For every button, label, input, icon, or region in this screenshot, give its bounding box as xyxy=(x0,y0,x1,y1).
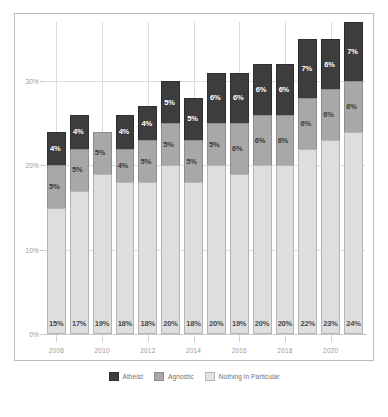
x-axis-label-2008: 2008 xyxy=(49,347,64,354)
x-axis-label-2014: 2014 xyxy=(186,347,201,354)
data-label: 18% xyxy=(118,320,132,328)
segment-nothing[interactable]: 19% xyxy=(93,174,112,334)
nothing-color-icon xyxy=(205,372,215,381)
data-label: 6% xyxy=(278,137,288,145)
chart-root: 0%10%20%30% 15%5%4%17%5%4%19%5%18%4%4%18… xyxy=(0,0,388,417)
legend-label: Nothing in Particular xyxy=(219,373,280,380)
segment-nothing[interactable]: 20% xyxy=(161,165,180,334)
data-label: 5% xyxy=(187,116,197,124)
segment-nothing[interactable]: 20% xyxy=(253,165,272,334)
x-axis-label-2020: 2020 xyxy=(323,347,338,354)
segment-agnostic[interactable]: 6% xyxy=(230,123,249,174)
segment-agnostic[interactable]: 5% xyxy=(138,140,157,182)
data-label: 6% xyxy=(255,137,265,145)
segment-nothing[interactable]: 18% xyxy=(184,182,203,334)
segment-atheist[interactable]: 6% xyxy=(230,73,249,124)
bar-2012[interactable]: 18%5%4% xyxy=(138,106,157,334)
data-label: 6% xyxy=(233,95,243,103)
data-label: 6% xyxy=(232,145,242,153)
bar-2016[interactable]: 19%6%6% xyxy=(230,73,249,334)
segment-agnostic[interactable]: 6% xyxy=(321,89,340,140)
data-label: 6% xyxy=(300,120,310,128)
bar-2008[interactable]: 15%5%4% xyxy=(47,132,66,334)
legend-item-agnostic[interactable]: Agnostic xyxy=(154,372,194,381)
bar-2018[interactable]: 20%6%6% xyxy=(276,64,295,334)
bar-2020[interactable]: 23%6%6% xyxy=(321,39,340,334)
segment-agnostic[interactable]: 5% xyxy=(161,123,180,165)
data-label: 5% xyxy=(49,183,59,191)
segment-atheist[interactable]: 5% xyxy=(184,98,203,140)
data-label: 17% xyxy=(72,320,86,328)
bar-2014[interactable]: 18%5%5% xyxy=(184,98,203,334)
bar-2009[interactable]: 17%5%4% xyxy=(70,115,89,334)
data-label: 4% xyxy=(50,145,60,153)
segment-agnostic[interactable]: 5% xyxy=(207,123,226,165)
legend-label: Atheist xyxy=(123,373,144,380)
y-axis-label: 30% xyxy=(25,78,39,85)
legend-item-atheist[interactable]: Atheist xyxy=(109,372,144,381)
segment-nothing[interactable]: 20% xyxy=(276,165,295,334)
segment-agnostic[interactable]: 5% xyxy=(93,132,112,174)
data-label: 5% xyxy=(164,99,174,107)
data-label: 6% xyxy=(210,95,220,103)
segment-atheist[interactable]: 6% xyxy=(207,73,226,124)
bar-2013[interactable]: 20%5%5% xyxy=(161,81,180,334)
segment-agnostic[interactable]: 5% xyxy=(184,140,203,182)
data-label: 18% xyxy=(186,320,200,328)
y-axis-label: 0% xyxy=(29,331,39,338)
data-label: 4% xyxy=(118,162,128,170)
segment-atheist[interactable]: 7% xyxy=(298,39,317,98)
bar-2021[interactable]: 24%6%7% xyxy=(344,22,363,334)
segment-atheist[interactable]: 4% xyxy=(47,132,66,166)
data-label: 19% xyxy=(232,320,246,328)
segment-atheist[interactable]: 6% xyxy=(321,39,340,90)
plot-area: 0%10%20%30% 15%5%4%17%5%4%19%5%18%4%4%18… xyxy=(45,22,365,334)
data-label: 5% xyxy=(140,158,150,166)
segment-agnostic[interactable]: 4% xyxy=(116,149,135,183)
segment-atheist[interactable]: 4% xyxy=(116,115,135,149)
bar-2019[interactable]: 22%6%7% xyxy=(298,39,317,334)
segment-atheist[interactable]: 7% xyxy=(344,22,363,81)
bar-series-group: 15%5%4%17%5%4%19%5%18%4%4%18%5%4%20%5%5%… xyxy=(45,22,365,334)
data-label: 4% xyxy=(119,128,129,136)
x-tick-mark xyxy=(56,334,57,342)
segment-nothing[interactable]: 18% xyxy=(116,182,135,334)
data-label: 20% xyxy=(163,320,177,328)
legend-item-nothing-in-particular[interactable]: Nothing in Particular xyxy=(205,372,280,381)
segment-nothing[interactable]: 15% xyxy=(47,208,66,334)
segment-agnostic[interactable]: 6% xyxy=(298,98,317,149)
data-label: 5% xyxy=(72,166,82,174)
segment-agnostic[interactable]: 6% xyxy=(344,81,363,132)
segment-nothing[interactable]: 24% xyxy=(344,132,363,334)
segment-nothing[interactable]: 19% xyxy=(230,174,249,334)
segment-agnostic[interactable]: 5% xyxy=(47,165,66,207)
segment-nothing[interactable]: 17% xyxy=(70,191,89,334)
data-label: 6% xyxy=(279,86,289,94)
segment-nothing[interactable]: 20% xyxy=(207,165,226,334)
data-label: 24% xyxy=(346,320,360,328)
data-label: 5% xyxy=(95,149,105,157)
segment-agnostic[interactable]: 6% xyxy=(276,115,295,166)
segment-atheist[interactable]: 4% xyxy=(138,106,157,140)
bar-2017[interactable]: 20%6%6% xyxy=(253,64,272,334)
bar-2011[interactable]: 18%4%4% xyxy=(116,115,135,334)
data-label: 23% xyxy=(323,320,337,328)
x-tick-mark xyxy=(285,334,286,342)
data-label: 20% xyxy=(255,320,269,328)
x-axis xyxy=(45,334,367,335)
segment-atheist[interactable]: 6% xyxy=(253,64,272,115)
segment-atheist[interactable]: 6% xyxy=(276,64,295,115)
segment-nothing[interactable]: 23% xyxy=(321,140,340,334)
segment-atheist[interactable]: 4% xyxy=(70,115,89,149)
segment-nothing[interactable]: 22% xyxy=(298,149,317,335)
bar-2010[interactable]: 19%5% xyxy=(93,132,112,334)
data-label: 5% xyxy=(186,158,196,166)
x-axis-label-2016: 2016 xyxy=(232,347,247,354)
segment-atheist[interactable]: 5% xyxy=(161,81,180,123)
segment-agnostic[interactable]: 6% xyxy=(253,115,272,166)
data-label: 18% xyxy=(140,320,154,328)
bar-2015[interactable]: 20%5%6% xyxy=(207,73,226,334)
segment-agnostic[interactable]: 5% xyxy=(70,149,89,191)
segment-nothing[interactable]: 18% xyxy=(138,182,157,334)
data-label: 15% xyxy=(49,320,63,328)
